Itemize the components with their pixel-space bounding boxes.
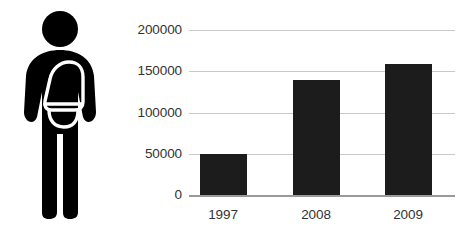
y-axis-tick-label: 50000 [108,147,182,161]
gridline-200000 [189,30,455,31]
x-axis-tick-label-2009: 2009 [368,208,448,222]
y-axis-tick-label: 150000 [108,64,182,78]
bar-chart: 200000 150000 100000 50000 0 1997 2008 2… [0,0,476,235]
x-axis-line [189,195,455,197]
y-axis-tick-label: 100000 [108,106,182,120]
bar-1997 [200,154,247,195]
y-axis-tick-label: 200000 [108,23,182,37]
x-axis-tick-label-1997: 1997 [183,208,263,222]
bar-2009 [385,64,432,195]
x-axis-tick-label-2008: 2008 [276,208,356,222]
bar-2008 [293,80,340,195]
y-axis-tick-label: 0 [108,188,182,202]
infographic-canvas: 200000 150000 100000 50000 0 1997 2008 2… [0,0,476,235]
